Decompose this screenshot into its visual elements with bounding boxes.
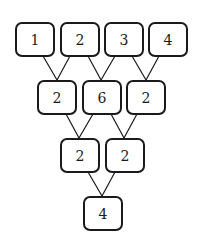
pyramid-node-r3-2: 2 xyxy=(105,138,145,173)
pyramid-node-r1-3: 3 xyxy=(104,22,144,57)
pyramid-node-r2-1: 2 xyxy=(37,80,77,115)
pyramid-node-r2-3: 2 xyxy=(126,80,166,115)
pyramid-node-r1-2: 2 xyxy=(60,22,100,57)
pyramid-node-r4-1: 4 xyxy=(83,196,123,231)
pyramid-node-r1-4: 4 xyxy=(148,22,188,57)
pyramid-node-r1-1: 1 xyxy=(15,22,55,57)
pyramid-node-r2-2: 6 xyxy=(82,80,122,115)
pyramid-node-r3-1: 2 xyxy=(60,138,100,173)
